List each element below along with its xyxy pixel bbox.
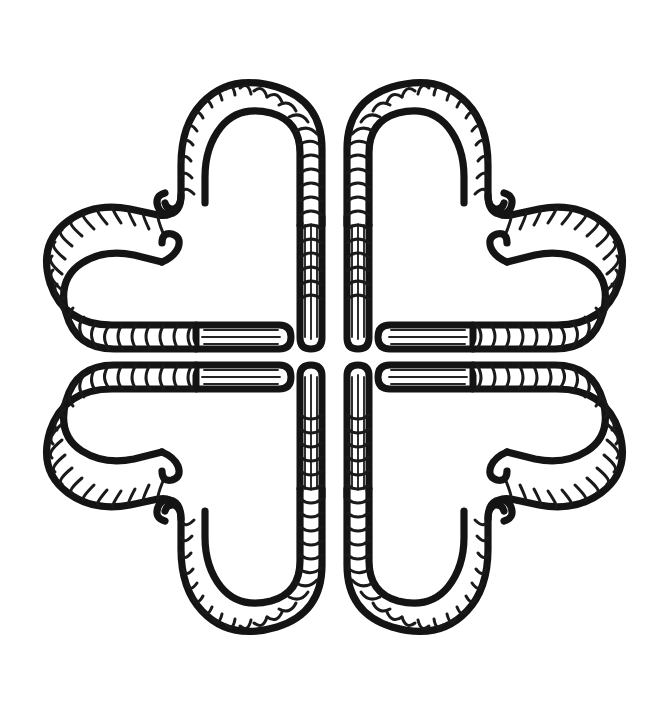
illustration-canvas: Four Segmented Worms in Quatrefoil Arran…: [0, 0, 669, 714]
background: [0, 0, 669, 714]
worm-quatrefoil-figure: Four Segmented Worms in Quatrefoil Arran…: [0, 0, 669, 714]
